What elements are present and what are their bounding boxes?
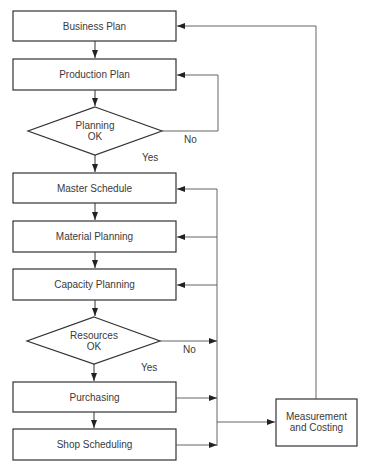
measurement-feedback-line — [177, 26, 316, 399]
purchasing-label: Purchasing — [13, 382, 176, 412]
shop-scheduling-label: Shop Scheduling — [13, 429, 176, 460]
production-plan-label: Production Plan — [13, 59, 176, 90]
measurement-costing-label-line1: Measurement — [276, 411, 357, 422]
resources-no-label: No — [183, 344, 196, 355]
resources-ok-label-line1: Resources — [54, 330, 134, 341]
planning-yes-label: Yes — [142, 152, 158, 163]
measurement-costing-label-line2: and Costing — [276, 422, 357, 433]
capacity-planning-label: Capacity Planning — [13, 269, 176, 300]
planning-ok-label-line2: OK — [55, 131, 135, 142]
resources-yes-label: Yes — [141, 362, 157, 373]
material-planning-label: Material Planning — [13, 221, 176, 252]
master-schedule-label: Master Schedule — [13, 173, 176, 203]
business-plan-label: Business Plan — [13, 11, 176, 41]
feedback-bus — [160, 189, 275, 446]
resources-ok-label-line2: OK — [54, 341, 134, 352]
planning-no-label: No — [184, 134, 197, 145]
planning-ok-label-line1: Planning — [55, 120, 135, 131]
